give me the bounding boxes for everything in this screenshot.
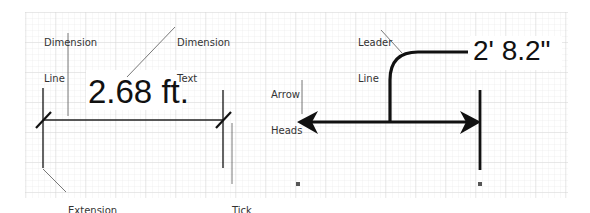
label-extension-line: Extension Line	[68, 181, 117, 213]
right-grip-point	[478, 182, 482, 186]
dimension-text-value: 2.68 ft.	[88, 75, 189, 108]
left-grip-point	[296, 182, 300, 186]
label-tick-marks: Tick Marks	[232, 181, 262, 213]
label-leader-line: Leader Line	[358, 13, 392, 97]
leader-text-value: 2' 8.2"	[473, 37, 551, 65]
label-arrow-heads: Arrow Heads	[271, 65, 302, 149]
